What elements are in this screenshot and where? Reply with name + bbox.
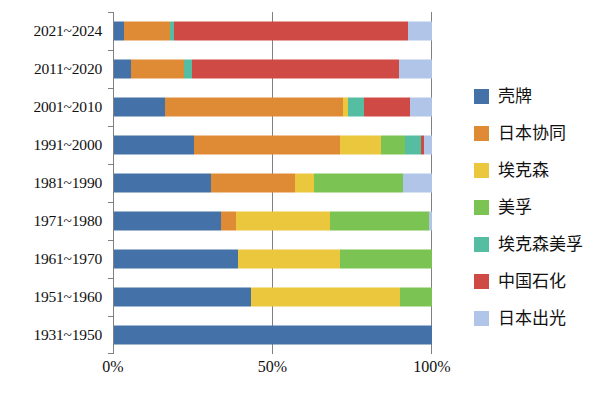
bar-row (114, 288, 432, 307)
legend-item[interactable]: 日本协同 (474, 115, 598, 152)
legend-item-label: 日本协同 (498, 125, 566, 142)
legend-color-swatch (474, 311, 489, 326)
bar-row (114, 174, 432, 193)
legend-item-label: 日本出光 (498, 310, 566, 327)
legend-color-swatch (474, 200, 489, 215)
legend: 壳牌日本协同埃克森美孚埃克森美孚中国石化日本出光 (474, 78, 598, 337)
bar-segment (251, 288, 400, 307)
bar-segment (165, 98, 343, 117)
bar-row (114, 22, 432, 41)
y-axis-tick-mark (108, 126, 113, 127)
legend-color-swatch (474, 237, 489, 252)
bar-segment (192, 60, 399, 79)
bar-segment (184, 60, 192, 79)
y-axis-tick-mark (108, 353, 113, 354)
bar-segment (340, 136, 381, 155)
bar-segment (211, 174, 295, 193)
y-axis-tick-label: 1991~2000 (0, 136, 102, 154)
y-axis-tick-mark (108, 12, 113, 13)
y-axis-tick-label: 2001~2010 (0, 98, 102, 116)
y-axis-tick-label: 1971~1980 (0, 212, 102, 230)
bar-segment (124, 22, 170, 41)
x-axis-tick-label: 50% (258, 358, 287, 376)
legend-item-label: 中国石化 (498, 273, 566, 290)
bar-segment (114, 60, 131, 79)
bar-segment (403, 174, 432, 193)
bar-segment (410, 98, 432, 117)
bar-segment (174, 22, 408, 41)
bar-row (114, 98, 432, 117)
legend-item[interactable]: 中国石化 (474, 263, 598, 300)
legend-item-label: 埃克森 (498, 162, 549, 179)
legend-item-label: 壳牌 (498, 88, 532, 105)
legend-item[interactable]: 日本出光 (474, 300, 598, 337)
x-axis-tick-label: 0% (102, 358, 123, 376)
bar-segment (381, 136, 405, 155)
bar-row (114, 212, 432, 231)
y-axis-tick-label: 2011~2020 (0, 60, 102, 78)
y-axis-tick-mark (108, 50, 113, 51)
bar-segment (194, 136, 340, 155)
bar-segment (408, 22, 432, 41)
legend-item[interactable]: 壳牌 (474, 78, 598, 115)
bar-segment (114, 136, 194, 155)
y-axis-tick-mark (108, 88, 113, 89)
bar-segment (400, 288, 432, 307)
bar-row (114, 136, 432, 155)
bar-segment (330, 212, 429, 231)
bar-segment (114, 22, 124, 41)
bar-group (114, 12, 432, 354)
legend-color-swatch (474, 274, 489, 289)
bar-segment (114, 326, 432, 345)
bar-segment (429, 212, 432, 231)
bar-segment (238, 250, 340, 269)
legend-color-swatch (474, 89, 489, 104)
legend-item[interactable]: 埃克森美孚 (474, 226, 598, 263)
legend-item-label: 埃克森美孚 (498, 236, 583, 253)
bar-segment (340, 250, 432, 269)
y-axis-tick-mark (108, 164, 113, 165)
bar-segment (236, 212, 330, 231)
bar-segment (114, 212, 221, 231)
stacked-bar-chart: 2021~20242011~20202001~20101991~20001981… (0, 0, 601, 402)
y-axis-tick-mark (108, 316, 113, 317)
y-axis-tick-label: 1951~1960 (0, 288, 102, 306)
bar-row (114, 60, 432, 79)
bar-segment (348, 98, 364, 117)
y-axis-tick-label: 1961~1970 (0, 250, 102, 268)
x-axis-tick-label: 100% (413, 358, 450, 376)
bar-segment (399, 60, 432, 79)
bar-segment (114, 288, 251, 307)
y-axis-tick-mark (108, 278, 113, 279)
plot-area (113, 12, 432, 354)
bar-segment (295, 174, 314, 193)
bar-segment (131, 60, 183, 79)
legend-color-swatch (474, 126, 489, 141)
bar-segment (424, 136, 432, 155)
legend-item[interactable]: 美孚 (474, 189, 598, 226)
legend-item[interactable]: 埃克森 (474, 152, 598, 189)
legend-item-label: 美孚 (498, 199, 532, 216)
bar-row (114, 250, 432, 269)
bar-segment (314, 174, 403, 193)
bar-segment (114, 250, 238, 269)
y-axis-label-group: 2021~20242011~20202001~20101991~20001981… (0, 12, 108, 354)
x-axis-label-group: 0%50%100% (0, 358, 601, 384)
bar-segment (221, 212, 237, 231)
bar-segment (114, 98, 165, 117)
y-axis-tick-mark (108, 202, 113, 203)
legend-color-swatch (474, 163, 489, 178)
bar-segment (364, 98, 410, 117)
bar-segment (405, 136, 421, 155)
y-axis-tick-label: 2021~2024 (0, 22, 102, 40)
y-axis-tick-label: 1981~1990 (0, 174, 102, 192)
y-axis-tick-mark (108, 240, 113, 241)
y-axis-tick-label: 1931~1950 (0, 326, 102, 344)
bar-segment (114, 174, 211, 193)
bar-row (114, 326, 432, 345)
